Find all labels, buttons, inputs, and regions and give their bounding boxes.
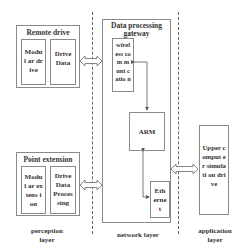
double-arrow-extension-gateway [80, 180, 102, 190]
application-layer-label-line2: layer [190, 236, 240, 245]
double-arrow-gateway-upper [171, 164, 198, 174]
double-arrow-remote-gateway [80, 56, 102, 66]
application-layer-label-line1: application [190, 227, 240, 236]
connector-arrows [0, 0, 243, 252]
network-layer-label: network layer [106, 231, 170, 240]
perception-layer-label-line1: perception [22, 227, 72, 236]
perception-layer-label-line2: layer [22, 236, 72, 245]
